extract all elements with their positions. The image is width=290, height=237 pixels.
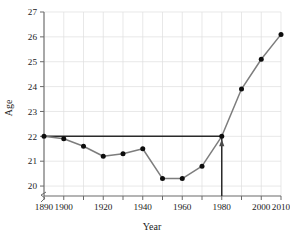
y-tick-label: 23 <box>28 107 38 117</box>
x-tick-label: 2010 <box>272 202 290 212</box>
x-axis-title: Year <box>143 221 162 232</box>
data-point-1950 <box>160 176 165 181</box>
chart-container: 2021222324252627 18901900192019401960198… <box>0 0 290 237</box>
x-tick-label: 1940 <box>134 202 153 212</box>
y-tick-label: 27 <box>28 7 38 17</box>
data-point-2000 <box>259 57 264 62</box>
data-point-1940 <box>140 146 145 151</box>
y-tick-label: 21 <box>28 156 38 166</box>
data-point-1970 <box>200 164 205 169</box>
data-point-1900 <box>61 136 66 141</box>
data-point-1990 <box>239 87 244 92</box>
data-point-2010 <box>279 32 284 37</box>
y-tick-label: 24 <box>28 82 38 92</box>
y-tick-label: 20 <box>28 181 38 191</box>
x-tick-label: 1960 <box>173 202 192 212</box>
x-tick-label: 1980 <box>213 202 232 212</box>
y-tick-label: 22 <box>28 132 38 142</box>
x-tick-label: 1890 <box>35 202 54 212</box>
data-point-1920 <box>101 154 106 159</box>
data-point-1930 <box>121 151 126 156</box>
data-point-1890 <box>42 134 47 139</box>
data-point-1960 <box>180 176 185 181</box>
data-point-1910 <box>81 144 86 149</box>
x-tick-label: 2000 <box>252 202 271 212</box>
data-point-1980 <box>219 134 224 139</box>
x-tick-label: 1920 <box>94 202 113 212</box>
line-chart: 2021222324252627 18901900192019401960198… <box>0 0 290 237</box>
y-axis-title: Age <box>3 99 14 116</box>
y-tick-label: 26 <box>28 32 38 42</box>
y-tick-label: 25 <box>28 57 38 67</box>
x-tick-label: 1900 <box>55 202 74 212</box>
